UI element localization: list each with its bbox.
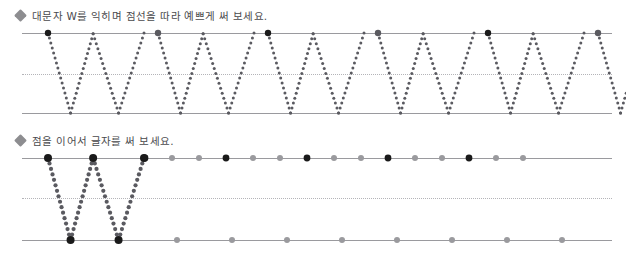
example-stroke-dot [49, 167, 53, 171]
example-stroke-dot [55, 189, 59, 193]
example-stroke-dot [106, 205, 110, 209]
example-stroke-dot [58, 200, 62, 204]
example-stroke-dot [125, 211, 129, 215]
example-stroke-dot [94, 167, 98, 171]
guide-dot-top [250, 155, 256, 161]
example-stroke-dot [100, 183, 104, 187]
example-stroke-dot [52, 178, 56, 182]
guide-dot-top [412, 155, 418, 161]
example-stroke-dot [71, 227, 75, 231]
example-stroke-dot [132, 189, 136, 193]
example-stroke-dot [53, 183, 57, 187]
example-stroke-dot [103, 194, 107, 198]
example-stroke-dot [135, 178, 139, 182]
example-stroke-dot [64, 222, 68, 226]
example-stroke-dot [98, 178, 102, 182]
example-stroke-dot [96, 172, 100, 176]
example-stroke-dot [130, 194, 134, 198]
guide-dot-bottom [229, 237, 235, 243]
guide-dot-bottom [504, 237, 510, 243]
example-stroke-dot [85, 178, 89, 182]
example-stroke-dot [139, 167, 143, 171]
example-stroke-dot [59, 205, 63, 209]
example-stroke-dot [122, 222, 126, 226]
guide-dot-top [493, 155, 499, 161]
guide-dot-bottom [449, 237, 455, 243]
example-stroke-dot [65, 227, 69, 231]
example-stroke-dot [56, 194, 60, 198]
worksheet-page: 대문자 W를 익히며 점선을 따라 예쁘게 써 보세요. 점을 이어서 글자를 … [0, 0, 626, 254]
guide-dot-top [520, 155, 526, 161]
example-vertex-dot [115, 236, 123, 244]
example-stroke-dot [93, 161, 97, 165]
example-vertex-dot [89, 154, 97, 162]
example-stroke-dot [79, 200, 83, 204]
guide-dot-top [385, 155, 392, 162]
example-stroke-dot [140, 161, 144, 165]
example-stroke-dot [84, 183, 88, 187]
guide-dot-bottom [394, 237, 400, 243]
example-vertex-dot [44, 154, 52, 162]
example-stroke-dot [108, 211, 112, 215]
guide-dot-top [169, 155, 175, 161]
example-stroke-dot [77, 205, 81, 209]
example-stroke-dot [118, 232, 122, 236]
example-stroke-dot [128, 200, 132, 204]
example-stroke-dot [120, 227, 124, 231]
example-stroke-dot [82, 189, 86, 193]
guide-dot-top [196, 155, 202, 161]
guide-dot-bottom [339, 237, 345, 243]
guide-dot-top [142, 155, 149, 162]
example-stroke-dot [88, 167, 92, 171]
example-stroke-dot [73, 222, 77, 226]
guide-dot-bottom [284, 237, 290, 243]
guide-dot-top [223, 155, 230, 162]
example-stroke-dot [137, 172, 141, 176]
guide-dot-bottom [174, 237, 180, 243]
example-stroke-dot [110, 216, 114, 220]
example-stroke-dot [111, 222, 115, 226]
example-stroke-dot [105, 200, 109, 204]
guide-dot-bottom [559, 237, 565, 243]
example-stroke-dot [62, 216, 66, 220]
guide-dot-top [466, 155, 473, 162]
example-stroke-dot [101, 189, 105, 193]
example-stroke-dot [61, 211, 65, 215]
example-stroke-dot [133, 183, 137, 187]
guide-dot-top [277, 155, 283, 161]
example-stroke-dot [76, 211, 80, 215]
example-stroke-dot [87, 172, 91, 176]
guide-dot-top [439, 155, 445, 161]
example-stroke-dot [127, 205, 131, 209]
guide-dot-top [331, 155, 337, 161]
guide-dot-top [358, 155, 364, 161]
example-stroke-dot [123, 216, 127, 220]
example-vertex-dot [67, 236, 75, 244]
example-stroke-dot [50, 172, 54, 176]
example-stroke-dot [80, 194, 84, 198]
example-stroke-dot [113, 227, 117, 231]
guide-dot-top [304, 155, 311, 162]
example-stroke-dot [74, 216, 78, 220]
letter-trace-layer-2 [0, 0, 626, 254]
